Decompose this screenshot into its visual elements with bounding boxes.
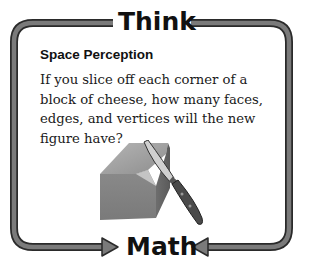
- cheese-block-icon: [100, 143, 170, 220]
- think-banner-label: Think: [118, 9, 190, 35]
- section-heading: Space Perception: [40, 47, 153, 62]
- question-text: If you slice off each corner of a block …: [40, 70, 280, 148]
- cheese-knife-illustration: [86, 140, 226, 240]
- arrow-right-icon: [102, 238, 118, 256]
